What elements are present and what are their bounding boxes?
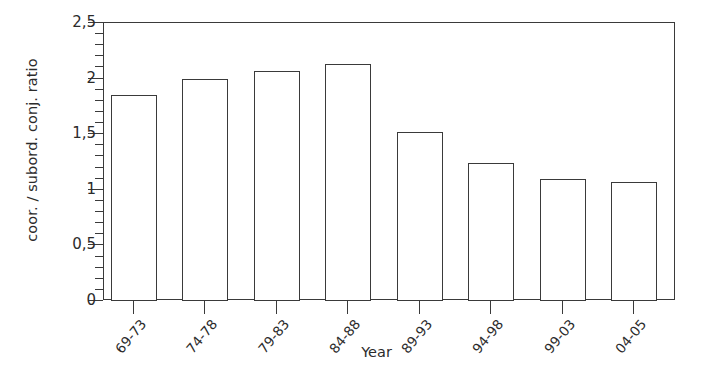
y-tick-minor <box>95 111 103 112</box>
y-tick-minor <box>95 200 103 201</box>
x-axis-title: Year <box>0 344 705 360</box>
chart-figure: coor. / subord. conj. ratio 00,511,522,5… <box>0 0 705 384</box>
y-tick-minor <box>95 66 103 67</box>
x-tick-major <box>133 300 134 314</box>
y-tick-label: 1 <box>32 181 96 196</box>
y-tick-minor <box>95 211 103 212</box>
y-tick-minor <box>95 256 103 257</box>
bar <box>468 163 514 301</box>
y-axis-ticks: 00,511,522,5 <box>0 0 96 384</box>
x-axis-title-text: Year <box>361 344 392 360</box>
x-tick-major <box>347 300 348 314</box>
y-tick-minor <box>95 233 103 234</box>
x-tick-major <box>562 300 563 314</box>
y-tick-minor <box>95 33 103 34</box>
bar <box>182 79 228 301</box>
y-tick-label: 0 <box>32 293 96 308</box>
y-tick-label: 0,5 <box>32 237 96 252</box>
y-tick-minor <box>95 44 103 45</box>
bar <box>397 132 443 301</box>
y-tick-minor <box>95 178 103 179</box>
y-tick-minor <box>95 122 103 123</box>
y-tick-minor <box>95 89 103 90</box>
x-tick-major <box>204 300 205 314</box>
y-tick-minor <box>95 100 103 101</box>
x-tick-major <box>633 300 634 314</box>
y-tick-minor <box>95 289 103 290</box>
y-tick-label: 2 <box>32 70 96 85</box>
bar <box>254 71 300 301</box>
x-tick-major <box>419 300 420 314</box>
x-tick-major <box>276 300 277 314</box>
bar <box>611 182 657 301</box>
y-tick-minor <box>95 55 103 56</box>
bar <box>111 95 157 301</box>
y-tick-label: 2,5 <box>32 15 96 30</box>
y-tick-label: 1,5 <box>32 126 96 141</box>
plot-area <box>103 22 675 300</box>
y-tick-minor <box>95 167 103 168</box>
bar <box>540 179 586 301</box>
x-tick-major <box>490 300 491 314</box>
y-tick-minor <box>95 267 103 268</box>
y-tick-minor <box>95 144 103 145</box>
y-tick-minor <box>95 278 103 279</box>
y-tick-minor <box>95 155 103 156</box>
bar <box>325 64 371 301</box>
y-tick-minor <box>95 222 103 223</box>
